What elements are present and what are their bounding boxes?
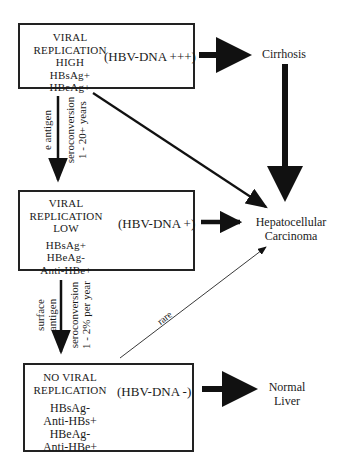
outcome-line: Hepatocellular	[253, 215, 329, 229]
serology-marker: Anti-HBe+	[27, 441, 113, 454]
stage-label-high: VIRAL REPLICATION HIGH HBsAg+ HBeAg+	[26, 31, 114, 94]
transition-2-rate-label: 1 - 2% per year	[80, 275, 92, 355]
stage-label-low: VIRAL REPLICATION LOW HBsAg+ HBeAg- Anti…	[24, 197, 108, 276]
serology-marker: HBsAg+	[24, 239, 108, 252]
hbv-dna-level-none: (HBV-DNA -)	[117, 384, 191, 400]
serology-marker: HBsAg+	[26, 69, 114, 82]
outcome-cirrhosis: Cirrhosis	[262, 47, 306, 61]
transition-2-seroconversion-label: seroconversion	[68, 275, 80, 355]
transition-1-seroconversion-label: seroconversion	[64, 90, 76, 170]
stage-line: VIRAL	[24, 197, 108, 210]
outcome-hepatocellular-carcinoma: Hepatocellular Carcinoma	[253, 215, 329, 243]
outcome-line: Liver	[262, 394, 312, 408]
box-high-replication: VIRAL REPLICATION HIGH HBsAg+ HBeAg+ (HB…	[18, 23, 195, 89]
box-no-replication: NO VIRAL REPLICATION HBsAg- Anti-HBs+ HB…	[23, 363, 194, 452]
stage-line: LOW	[24, 222, 108, 235]
transition-2-antigen-line2: antigen	[46, 285, 58, 345]
stage-line: REPLICATION	[26, 44, 114, 57]
hbv-dna-level-low: (HBV-DNA +)	[118, 216, 195, 232]
outcome-normal-liver: Normal Liver	[262, 380, 312, 408]
serology-markers-none: HBsAg- Anti-HBs+ HBeAg- Anti-HBe+	[27, 402, 113, 454]
outcome-line: Normal	[262, 380, 312, 394]
stage-line: REPLICATION	[24, 210, 108, 223]
hbv-dna-level-high: (HBV-DNA +++)	[104, 49, 196, 65]
serology-marker: Anti-HBe+	[24, 264, 108, 277]
stage-label-none: NO VIRAL REPLICATION	[27, 371, 113, 396]
serology-marker: HBeAg-	[24, 251, 108, 264]
stage-line: REPLICATION	[27, 384, 113, 397]
stage-line: HIGH	[26, 56, 114, 69]
box-low-replication: VIRAL REPLICATION LOW HBsAg+ HBeAg- Anti…	[18, 190, 195, 271]
transition-1-rate-label: 1 - 20+ years	[76, 90, 88, 170]
transition-1-antigen-label: e antigen	[41, 100, 53, 160]
stage-line: NO VIRAL	[27, 371, 113, 384]
transition-2-antigen-line1: surface	[34, 285, 46, 345]
outcome-line: Carcinoma	[253, 229, 329, 243]
stage-line: VIRAL	[26, 31, 114, 44]
